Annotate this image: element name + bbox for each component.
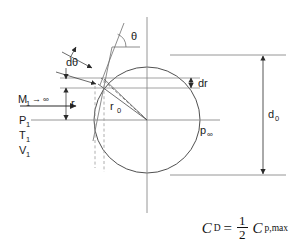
mach-subscript: 1 — [26, 99, 30, 108]
theta-label: θ — [131, 30, 137, 42]
temperature-label: T — [19, 129, 26, 141]
r0-subscript: 0 — [117, 106, 121, 115]
d0-subscript: 0 — [275, 114, 279, 123]
formula-lhs-subscript: D — [214, 223, 221, 233]
formula-equals: = — [224, 220, 232, 237]
drag-coefficient-formula: CD = 1 2 Cp,max — [202, 215, 288, 243]
ray-theta-upper — [100, 23, 124, 85]
formula-rhs: C — [253, 220, 263, 237]
figure-canvas: M 1 → ∞ P 1 T 1 V 1 θ dθ dr r r 0 p ∞ d … — [0, 0, 296, 250]
formula-fraction: 1 2 — [237, 214, 248, 242]
dr-label: dr — [198, 77, 208, 89]
r0-label: r — [110, 100, 114, 112]
diagram-svg: M 1 → ∞ P 1 T 1 V 1 θ dθ dr r r 0 p ∞ d … — [0, 0, 296, 250]
velocity-subscript: 1 — [26, 150, 30, 159]
pressure-subscript: 1 — [26, 120, 30, 129]
dtheta-label: dθ — [66, 56, 78, 68]
mach-arrow-icon: → — [32, 94, 41, 104]
d0-label: d — [268, 108, 274, 120]
formula-denominator: 2 — [237, 227, 248, 241]
p-infinity-subscript: ∞ — [207, 130, 213, 139]
infinity-icon: ∞ — [43, 95, 49, 104]
formula-lhs: C — [202, 220, 212, 237]
temperature-subscript: 1 — [26, 135, 30, 144]
formula-rhs-subscript: p,max — [265, 223, 288, 233]
formula-numerator: 1 — [237, 214, 248, 227]
r-label: r — [71, 97, 75, 109]
radius-line-r0 — [98, 84, 147, 120]
p-infinity-label: p — [200, 124, 206, 136]
